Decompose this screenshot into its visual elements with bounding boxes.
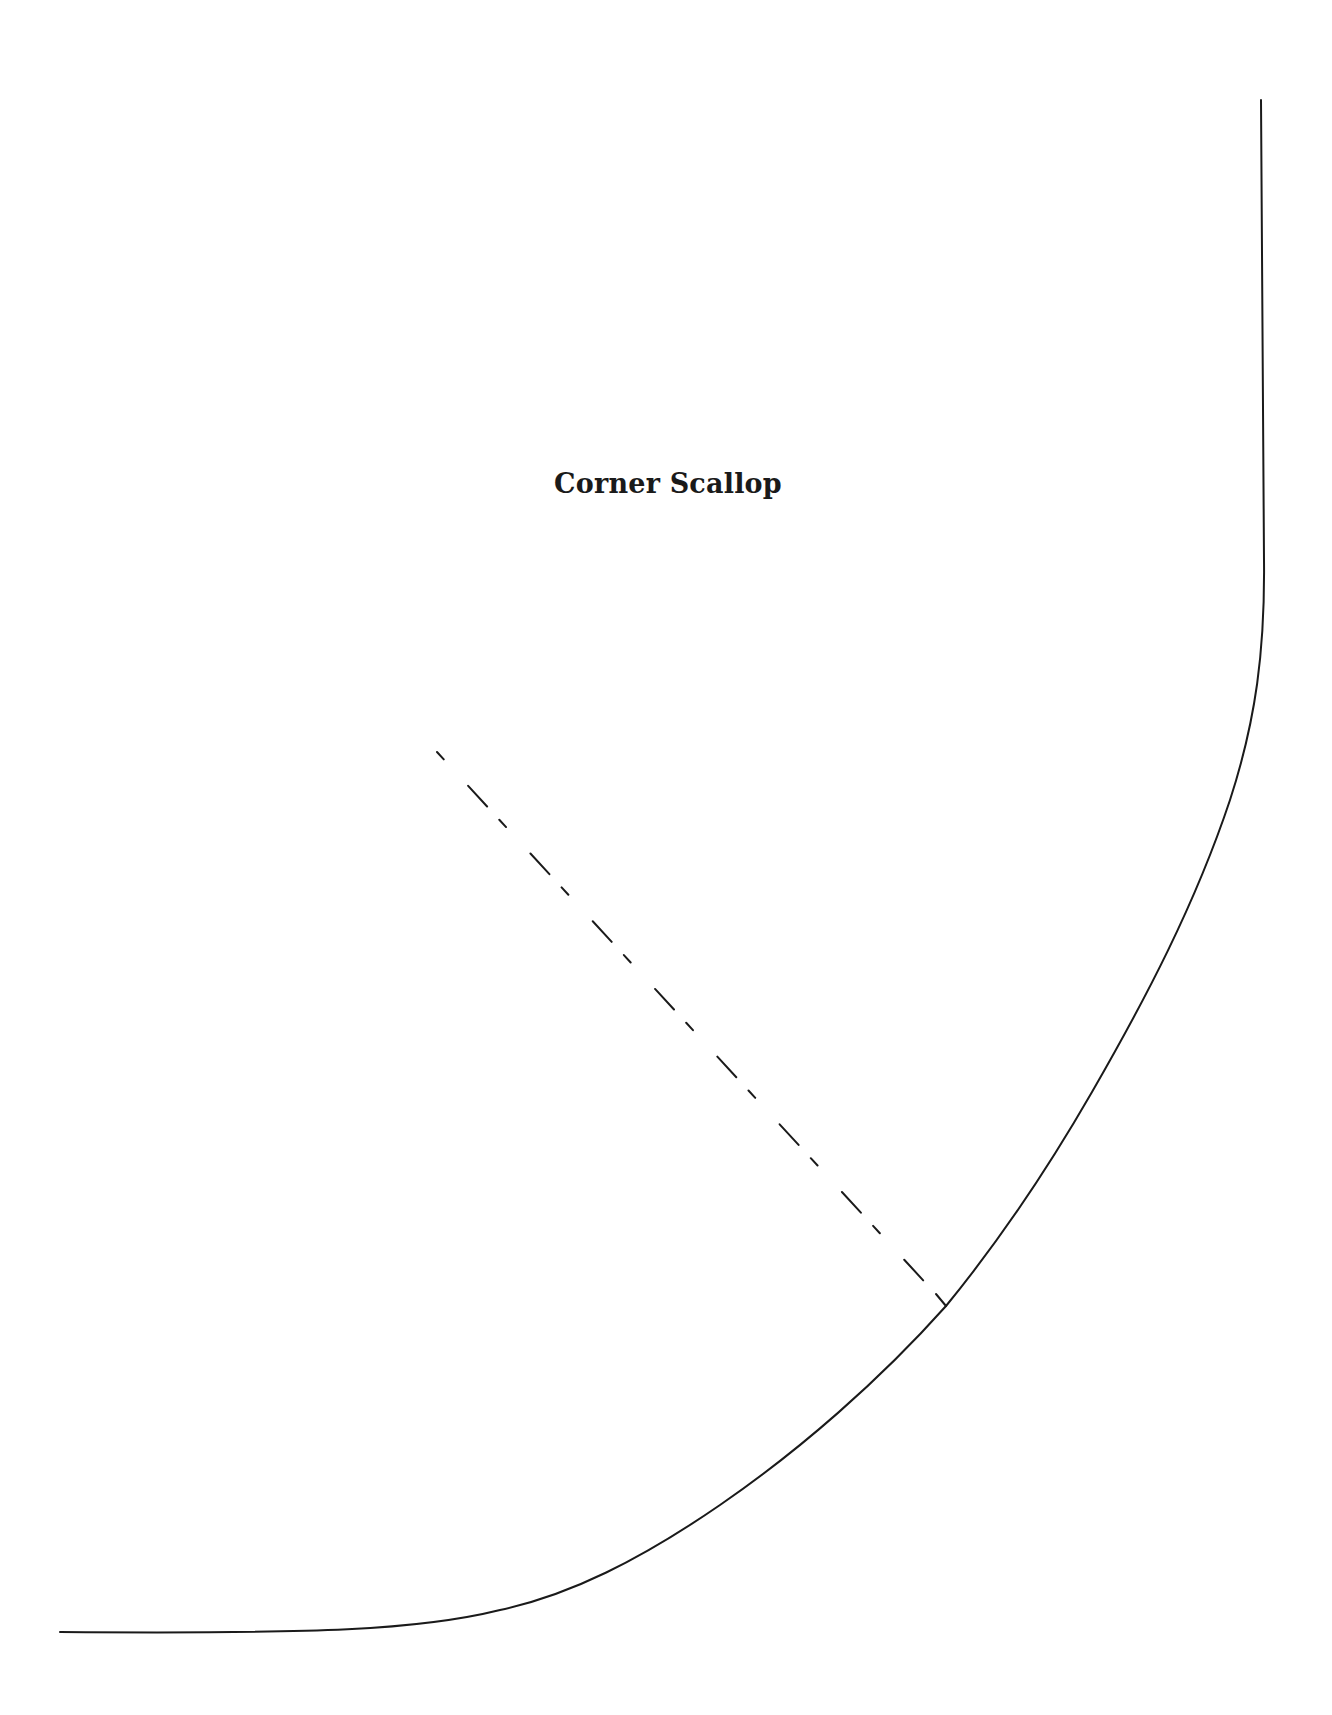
pattern-drawing	[0, 0, 1332, 1715]
pattern-sheet: Corner Scallop	[0, 0, 1332, 1715]
fold-line-end-tick	[936, 1294, 946, 1306]
scallop-cut-line	[60, 100, 1264, 1632]
dashed-fold-line	[437, 752, 933, 1291]
pattern-title: Corner Scallop	[2, 468, 1332, 499]
